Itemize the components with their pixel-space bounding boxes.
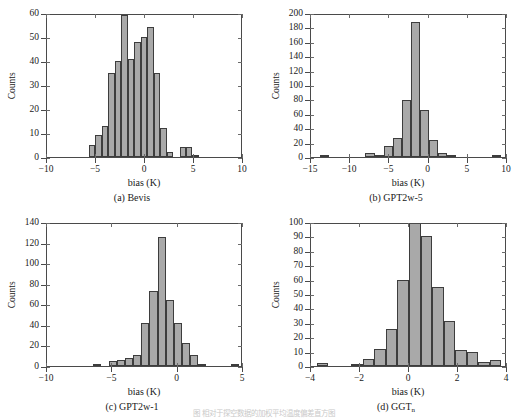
x-tick-top [242,14,243,18]
x-tick-label: 10 [237,165,247,175]
y-tick-label: 0 [298,153,303,163]
y-tick-label: 200 [289,9,303,19]
figure-bottom-caption: 图 相对于探空数据的加权平均温度偏差直方图 [0,409,528,418]
y-tick-right [238,346,242,347]
histogram-bar [411,22,420,157]
x-tick-mark [388,158,389,163]
y-tick-right [502,86,506,87]
x-tick-top [193,14,194,18]
x-tick-top [467,14,468,18]
y-tick-inner [310,72,314,73]
panel-b-xlabel: bias (K) [310,178,506,188]
y-tick-right [502,144,506,145]
x-tick-top [310,14,311,18]
y-tick-inner [46,86,50,87]
panel-b-caption: (b) GPT2w-5 [264,193,528,203]
panel-b-axes [310,14,506,158]
x-tick-label: 0 [142,165,147,175]
y-tick-label: 50 [294,290,304,300]
x-tick-top [95,14,96,18]
histogram-bar [386,329,398,366]
histogram-bar [182,343,190,366]
x-tick-mark [242,158,243,163]
y-tick-label: 50 [30,33,40,43]
y-tick-label: 160 [289,38,303,48]
x-tick-mark [46,367,47,372]
x-tick-top [457,223,458,227]
x-tick-top [359,223,360,227]
x-tick-mark [408,367,409,372]
y-tick-label: 100 [289,218,303,228]
histogram-bar [121,15,127,157]
y-tick-inner [310,28,314,29]
x-tick-label: 5 [464,165,469,175]
x-tick-top [506,223,507,227]
y-tick-right [502,324,506,325]
x-tick-mark [177,367,178,372]
x-tick-label: 5 [191,165,196,175]
y-tick-inner [310,86,314,87]
y-tick-label: 60 [294,110,304,120]
y-tick-inner [46,346,50,347]
x-tick-top [428,14,429,18]
y-tick-right [502,353,506,354]
y-tick-inner [310,266,314,267]
x-tick-inner [408,363,409,367]
x-tick-inner [242,154,243,158]
panel-c-bars [47,224,241,366]
y-tick-label: 80 [30,280,40,290]
y-tick-label: 30 [30,81,40,91]
y-tick-right [502,338,506,339]
y-tick-right [238,86,242,87]
x-tick-mark [193,158,194,163]
histogram-bar [158,237,166,366]
x-tick-inner [177,363,178,367]
histogram-bar [166,300,174,366]
y-tick-right [502,57,506,58]
panel-a-xlabel: bias (K) [46,178,242,188]
y-tick-label: 120 [25,239,39,249]
histogram-bar [351,364,363,366]
histogram-bar [432,287,444,366]
y-tick-label: 10 [294,348,304,358]
panel-c-axes [46,223,242,367]
y-tick-inner [46,326,50,327]
y-tick-inner [46,38,50,39]
y-tick-right [238,264,242,265]
x-tick-label: 10 [501,165,511,175]
y-tick-inner [310,295,314,296]
histogram-bar [421,236,433,366]
x-tick-inner [46,154,47,158]
y-tick-label: 40 [294,305,304,315]
x-tick-label: 2 [455,374,460,384]
x-tick-mark [428,158,429,163]
histogram-bar [117,360,125,366]
histogram-figure: Counts 0102030405060−10−50510 bias (K) (… [0,0,528,418]
x-tick-label: −10 [342,165,357,175]
histogram-bar [429,140,438,157]
x-tick-label: −4 [305,374,315,384]
x-tick-top [388,14,389,18]
x-tick-top [46,14,47,18]
x-tick-inner [46,363,47,367]
x-tick-inner [349,154,350,158]
y-tick-label: 140 [289,52,303,62]
y-tick-right [502,28,506,29]
x-tick-inner [506,154,507,158]
panel-a-ylabel: Counts [6,14,18,158]
x-tick-mark [242,367,243,372]
y-tick-label: 0 [298,362,303,372]
y-tick-inner [310,237,314,238]
x-tick-label: 0 [425,165,430,175]
x-tick-inner [144,154,145,158]
x-tick-inner [388,154,389,158]
y-tick-label: 100 [25,259,39,269]
histogram-bar [438,153,447,157]
x-tick-label: 5 [240,374,245,384]
x-tick-top [408,223,409,227]
y-tick-label: 20 [294,333,304,343]
y-tick-label: 120 [289,67,303,77]
histogram-bar [198,364,206,366]
y-tick-label: 20 [30,342,40,352]
histogram-bar [133,355,141,366]
